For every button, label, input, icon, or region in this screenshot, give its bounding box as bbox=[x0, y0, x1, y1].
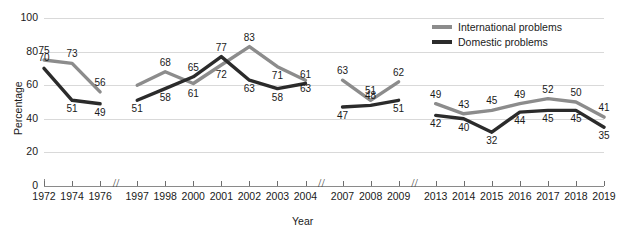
data-label-domestic: 63 bbox=[238, 83, 260, 94]
x-tick-mark bbox=[399, 181, 400, 186]
x-tick-label: 2004 bbox=[291, 190, 319, 202]
axis-break-marker: // bbox=[318, 176, 325, 191]
data-label-international: 63 bbox=[294, 83, 316, 94]
data-label-international: 73 bbox=[61, 48, 83, 59]
x-tick-label: 2015 bbox=[478, 190, 506, 202]
data-label-domestic: 40 bbox=[453, 122, 475, 133]
data-label-domestic: 77 bbox=[210, 42, 232, 53]
data-label-international: 63 bbox=[332, 65, 354, 76]
chart-legend: International problems Domestic problems bbox=[432, 21, 562, 51]
data-label-international: 41 bbox=[593, 102, 615, 113]
data-label-international: 49 bbox=[509, 89, 531, 100]
data-label-domestic: 51 bbox=[61, 103, 83, 114]
x-tick-mark bbox=[165, 181, 166, 186]
data-label-domestic: 70 bbox=[33, 52, 55, 63]
data-label-international: 71 bbox=[266, 70, 288, 81]
x-tick-mark bbox=[137, 181, 138, 186]
axis-break-marker: // bbox=[411, 176, 418, 191]
data-label-domestic: 32 bbox=[481, 135, 503, 146]
data-label-domestic: 44 bbox=[509, 115, 531, 126]
legend-swatch-international bbox=[432, 25, 452, 29]
x-tick-label: 2017 bbox=[534, 190, 562, 202]
x-tick-mark bbox=[221, 181, 222, 186]
x-tick-label: 1972 bbox=[30, 190, 58, 202]
x-tick-label: 2002 bbox=[235, 190, 263, 202]
data-label-domestic: 58 bbox=[266, 92, 288, 103]
data-label-domestic: 51 bbox=[126, 103, 148, 114]
legend-item-international[interactable]: International problems bbox=[432, 21, 562, 33]
legend-item-domestic[interactable]: Domestic problems bbox=[432, 36, 562, 48]
x-tick-mark bbox=[520, 181, 521, 186]
data-label-international: 45 bbox=[481, 95, 503, 106]
x-tick-label: 2013 bbox=[422, 190, 450, 202]
data-label-international: 83 bbox=[238, 32, 260, 43]
data-label-international: 62 bbox=[388, 67, 410, 78]
x-tick-mark bbox=[193, 181, 194, 186]
data-label-international: 61 bbox=[182, 88, 204, 99]
x-tick-mark bbox=[576, 181, 577, 186]
data-label-international: 50 bbox=[565, 87, 587, 98]
legend-swatch-domestic bbox=[432, 40, 452, 44]
data-label-domestic: 61 bbox=[294, 69, 316, 80]
data-label-domestic: 47 bbox=[332, 110, 354, 121]
legend-label-domestic: Domestic problems bbox=[458, 36, 548, 48]
x-tick-label: 2003 bbox=[263, 190, 291, 202]
x-tick-label: 2016 bbox=[506, 190, 534, 202]
data-label-domestic: 45 bbox=[537, 113, 559, 124]
legend-label-international: International problems bbox=[458, 21, 562, 33]
x-tick-label: 1998 bbox=[151, 190, 179, 202]
x-tick-mark bbox=[72, 181, 73, 186]
x-tick-label: 2014 bbox=[450, 190, 478, 202]
x-tick-mark bbox=[548, 181, 549, 186]
x-tick-label: 2009 bbox=[385, 190, 413, 202]
data-label-domestic: 35 bbox=[593, 130, 615, 141]
x-tick-mark bbox=[343, 181, 344, 186]
x-tick-mark bbox=[492, 181, 493, 186]
x-tick-label: 2001 bbox=[207, 190, 235, 202]
data-label-domestic: 58 bbox=[154, 92, 176, 103]
data-label-international: 72 bbox=[210, 69, 232, 80]
axis-break-marker: // bbox=[113, 176, 120, 191]
x-tick-mark bbox=[436, 181, 437, 186]
x-tick-label: 2018 bbox=[562, 190, 590, 202]
data-label-domestic: 48 bbox=[360, 90, 382, 101]
data-label-international: 68 bbox=[154, 57, 176, 68]
data-label-domestic: 49 bbox=[89, 107, 111, 118]
x-tick-mark bbox=[249, 181, 250, 186]
x-tick-mark bbox=[44, 181, 45, 186]
data-label-international: 49 bbox=[425, 89, 447, 100]
data-label-domestic: 42 bbox=[425, 118, 447, 129]
x-tick-label: 1997 bbox=[123, 190, 151, 202]
x-tick-mark bbox=[100, 181, 101, 186]
x-tick-label: 2008 bbox=[357, 190, 385, 202]
x-tick-mark bbox=[604, 181, 605, 186]
x-tick-label: 1976 bbox=[86, 190, 114, 202]
x-tick-label: 2019 bbox=[590, 190, 618, 202]
data-label-domestic: 45 bbox=[565, 113, 587, 124]
x-axis-title: Year bbox=[292, 215, 313, 227]
data-label-domestic: 51 bbox=[388, 103, 410, 114]
x-tick-label: 1974 bbox=[58, 190, 86, 202]
data-label-international: 43 bbox=[453, 99, 475, 110]
x-tick-mark bbox=[464, 181, 465, 186]
x-tick-mark bbox=[371, 181, 372, 186]
data-label-international: 56 bbox=[89, 77, 111, 88]
x-tick-label: 2007 bbox=[329, 190, 357, 202]
x-tick-mark bbox=[306, 181, 307, 186]
data-label-domestic: 65 bbox=[182, 62, 204, 73]
x-tick-mark bbox=[277, 181, 278, 186]
x-tick-label: 2000 bbox=[179, 190, 207, 202]
data-label-international: 52 bbox=[537, 84, 559, 95]
